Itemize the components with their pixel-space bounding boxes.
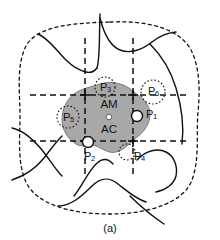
- interior-curve-top-center: [97, 14, 100, 68]
- point-label-p2: P 2: [84, 150, 95, 163]
- point-label-p5-sub: 5: [70, 115, 74, 124]
- point-label-p6-sub: 6: [155, 89, 159, 98]
- point-label-p2-sub: 2: [91, 154, 95, 163]
- point-label-p4-sub: 4: [141, 154, 145, 163]
- interior-curve-bottom-center: [74, 160, 113, 197]
- point-marker-p2: [83, 137, 94, 148]
- region-label-am: AM: [100, 98, 117, 110]
- point-label-p4: P 4: [134, 150, 145, 163]
- figure-caption: (a): [103, 222, 116, 234]
- point-label-p1: P 1: [146, 108, 157, 121]
- point-label-p1-sub: 1: [153, 112, 157, 121]
- point-label-p6: P 6: [148, 85, 159, 98]
- region-label-ac: AC: [101, 123, 117, 135]
- interior-curve-bottom-wave: [58, 179, 146, 206]
- point-marker-p1: [132, 111, 143, 122]
- point-label-p3-sub: 3: [107, 85, 111, 94]
- interior-curve-top-left: [38, 34, 97, 72]
- figure-diagram: AM AC P 1 P 2 P 3 P 4 P 5 P 6 (a): [0, 0, 220, 240]
- center-seed-marker: [106, 114, 112, 120]
